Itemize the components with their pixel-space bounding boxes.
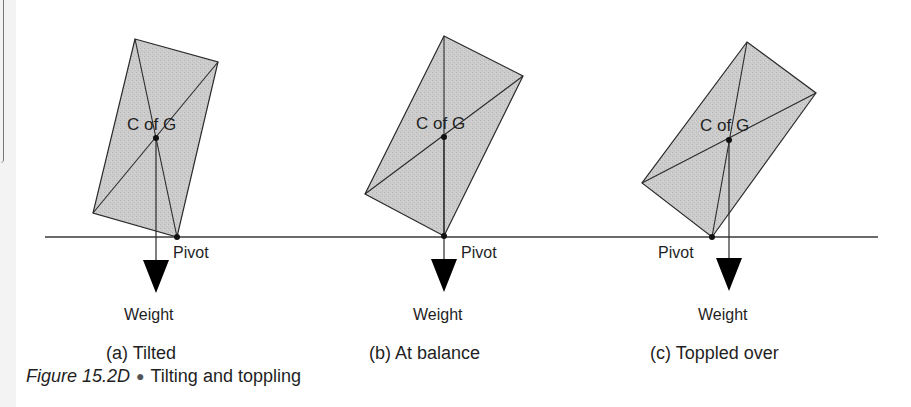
cog-label-a: C of G: [127, 115, 176, 134]
caption-b: (b) At balance: [369, 343, 480, 364]
cog-label-b: C of G: [416, 114, 465, 133]
weight-label-c: Weight: [698, 306, 748, 323]
caption-c: (c) Toppled over: [650, 343, 779, 364]
pivot-dot-c: [709, 234, 715, 240]
figure-caption: Figure 15.2D●Tilting and toppling: [26, 366, 301, 387]
figure-title: Tilting and toppling: [151, 366, 301, 386]
pivot-label-b: Pivot: [461, 244, 497, 261]
weight-label-b: Weight: [413, 306, 463, 323]
caption-a: (a) Tilted: [106, 343, 176, 364]
weight-arrow-icon-b: [431, 259, 457, 292]
pivot-dot-b: [441, 233, 447, 239]
bullet-icon: ●: [136, 368, 144, 384]
weight-label-a: Weight: [124, 306, 174, 323]
weight-arrow-icon-a: [143, 260, 169, 293]
panel-c-toppled-over: C of G Pivot Weight: [642, 42, 816, 323]
figure-number: Figure 15.2D: [26, 366, 130, 386]
pivot-label-c: Pivot: [658, 244, 694, 261]
pivot-dot-a: [174, 234, 180, 240]
panel-b-at-balance: C of G Pivot Weight: [365, 36, 523, 323]
cog-dot-b: [441, 134, 447, 140]
weight-arrow-icon-c: [716, 258, 742, 291]
pivot-label-a: Pivot: [173, 244, 209, 261]
panel-a-tilted: C of G Pivot Weight: [93, 39, 218, 323]
cog-dot-c: [726, 137, 732, 143]
cog-dot-a: [153, 135, 159, 141]
cog-label-c: C of G: [700, 116, 749, 135]
